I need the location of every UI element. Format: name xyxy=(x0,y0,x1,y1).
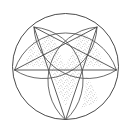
figure-background xyxy=(0,0,131,131)
geometric-figure-canvas: Circle with inscribed five-pointed star … xyxy=(0,0,131,131)
geometric-figure-svg: Circle with inscribed five-pointed star … xyxy=(0,0,131,131)
